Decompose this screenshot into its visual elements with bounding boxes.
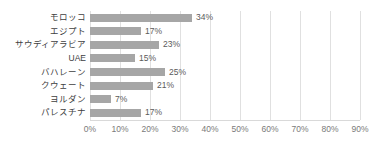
x-tick-label: 20% <box>141 124 158 134</box>
bar[interactable] <box>90 54 135 62</box>
category-label: エジプト <box>0 25 86 39</box>
bar-row: 34% <box>90 11 360 25</box>
x-tick-label: 10% <box>111 124 128 134</box>
bar[interactable] <box>90 109 141 117</box>
bar-value-label: 34% <box>196 11 213 25</box>
category-label: クウェート <box>0 79 86 93</box>
category-label: サウディアラビア <box>0 38 86 52</box>
x-axis-tick-labels: 0%10%20%30%40%50%60%70%80%90% <box>90 124 360 138</box>
bar-row: 21% <box>90 79 360 93</box>
category-label: UAE <box>0 52 86 66</box>
x-tick-label: 80% <box>321 124 338 134</box>
x-tick-label: 0% <box>84 124 96 134</box>
bar-chart: 34%17%23%15%25%21%7%17% モロッコエジプトサウディアラビア… <box>0 0 380 149</box>
bar-value-label: 17% <box>145 106 162 120</box>
bar-row: 17% <box>90 106 360 120</box>
bar-row: 15% <box>90 52 360 66</box>
bar[interactable] <box>90 14 192 22</box>
bar-value-label: 17% <box>145 25 162 39</box>
bar-value-label: 23% <box>163 38 180 52</box>
bar[interactable] <box>90 82 153 90</box>
bar[interactable] <box>90 27 141 35</box>
bar-value-label: 7% <box>115 93 127 107</box>
bar[interactable] <box>90 68 165 76</box>
gridline-90 <box>360 11 361 120</box>
bar-value-label: 21% <box>157 79 174 93</box>
bar-row: 23% <box>90 38 360 52</box>
category-label: バハレーン <box>0 66 86 80</box>
bar-row: 17% <box>90 25 360 39</box>
bar[interactable] <box>90 41 159 49</box>
x-axis-line <box>90 120 360 121</box>
bar-row: 7% <box>90 93 360 107</box>
x-tick-label: 60% <box>261 124 278 134</box>
category-label: ヨルダン <box>0 93 86 107</box>
x-tick-label: 40% <box>201 124 218 134</box>
bar[interactable] <box>90 95 111 103</box>
plot-area: 34%17%23%15%25%21%7%17% <box>90 11 360 120</box>
x-tick-label: 90% <box>351 124 368 134</box>
bar-value-label: 15% <box>139 52 156 66</box>
bar-value-label: 25% <box>169 66 186 80</box>
x-tick-label: 50% <box>231 124 248 134</box>
bar-row: 25% <box>90 66 360 80</box>
category-label: モロッコ <box>0 11 86 25</box>
category-label: パレスチナ <box>0 106 86 120</box>
category-axis-labels: モロッコエジプトサウディアラビアUAEバハレーンクウェートヨルダンパレスチナ <box>0 11 86 120</box>
x-tick-label: 30% <box>171 124 188 134</box>
x-tick-label: 70% <box>291 124 308 134</box>
